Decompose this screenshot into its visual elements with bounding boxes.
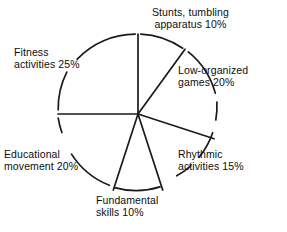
arc-fitness-activities (58, 72, 67, 110)
spoke-198deg (113, 114, 138, 190)
pie-chart-figure: Stunts, tumbling apparatus 10% Low-organ… (0, 0, 287, 232)
slice-label-fitness-activities-line2: activities 25% (14, 58, 80, 70)
slice-label-fitness-activities: Fitness activities 25% (14, 46, 80, 70)
arc-stunts (141, 34, 183, 48)
slice-label-fitness-activities-line1: Fitness (14, 46, 80, 58)
slice-label-low-organized-games: Low-organized games 20% (178, 64, 248, 88)
slice-label-rhythmic-activities-line1: Rhythmic (178, 148, 244, 160)
arc-educational-movement-2 (58, 118, 62, 132)
arc-fitness-activities-2 (77, 34, 135, 59)
slice-label-fundamental-skills-line1: Fundamental (96, 194, 158, 206)
slice-label-fundamental-skills-line2: skills 10% (96, 206, 158, 218)
slice-label-rhythmic-activities: Rhythmic activities 15% (178, 148, 244, 172)
slice-label-stunts: Stunts, tumbling apparatus 10% (152, 6, 229, 30)
slice-label-fundamental-skills: Fundamental skills 10% (96, 194, 158, 218)
slice-label-educational-movement-line1: Educational (4, 148, 78, 160)
spoke-108deg (138, 114, 214, 139)
slice-label-rhythmic-activities-line2: activities 15% (178, 160, 244, 172)
slice-label-educational-movement-line2: movement 20% (4, 160, 78, 172)
spoke-162deg (138, 114, 163, 190)
slice-label-low-organized-games-line2: games 20% (178, 76, 248, 88)
arc-fundamental-skills (115, 187, 161, 191)
slice-label-low-organized-games-line1: Low-organized (178, 64, 248, 76)
slice-label-educational-movement: Educational movement 20% (4, 148, 78, 172)
slice-label-stunts-line1: Stunts, tumbling (152, 6, 229, 18)
arc-low-organized-games-2 (216, 102, 217, 120)
slice-label-stunts-line2: apparatus 10% (152, 18, 229, 30)
